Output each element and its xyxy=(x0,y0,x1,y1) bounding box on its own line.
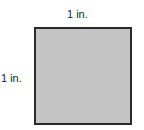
top-side-length-label: 1 in. xyxy=(67,8,88,20)
left-side-length-label: 1 in. xyxy=(1,72,22,84)
square-shape xyxy=(34,27,132,125)
